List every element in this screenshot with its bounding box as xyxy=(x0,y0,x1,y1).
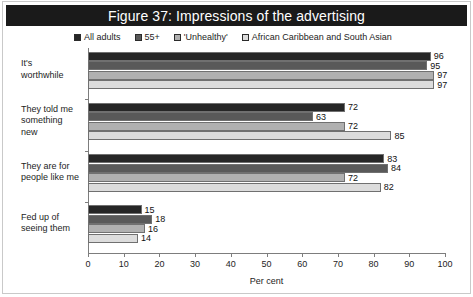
x-axis-title: Per cent xyxy=(88,276,445,286)
bar-value-label: 72 xyxy=(348,103,358,112)
y-axis-tick xyxy=(85,151,88,152)
x-axis-tick xyxy=(88,253,89,257)
legend-swatch-icon xyxy=(74,34,81,41)
bar[interactable] xyxy=(88,131,391,140)
x-axis-tick-label: 30 xyxy=(190,259,200,269)
x-axis-tick-label: 70 xyxy=(333,259,343,269)
x-axis-tick xyxy=(374,253,375,257)
bar-value-label: 72 xyxy=(348,174,358,183)
legend-item[interactable]: 55+ xyxy=(135,33,160,42)
category-label: It'sworthwhile xyxy=(21,58,87,81)
legend-item-label: All adults xyxy=(84,33,121,42)
legend-swatch-icon xyxy=(242,34,249,41)
bar[interactable] xyxy=(88,224,145,233)
bar[interactable] xyxy=(88,122,345,131)
category-label-line: They told me xyxy=(21,104,87,116)
legend-item[interactable]: African Caribbean and South Asian xyxy=(242,33,392,42)
bar[interactable] xyxy=(88,173,345,182)
x-axis-tick-label: 10 xyxy=(119,259,129,269)
y-axis-tick xyxy=(85,202,88,203)
category-label-line: people like me xyxy=(21,172,87,184)
x-axis-tick-label: 90 xyxy=(404,259,414,269)
x-axis-tick xyxy=(445,253,446,257)
figure-title-bar: Figure 37: Impressions of the advertisin… xyxy=(6,5,467,26)
x-axis-tick-label: 100 xyxy=(437,259,452,269)
category-label-line: new xyxy=(21,127,87,139)
bar-value-label: 85 xyxy=(394,132,404,141)
category-label: Fed up ofseeing them xyxy=(21,212,87,235)
x-axis-tick-label: 50 xyxy=(261,259,271,269)
x-axis-tick-label: 60 xyxy=(297,259,307,269)
x-axis-tick xyxy=(302,253,303,257)
x-axis-tick-label: 40 xyxy=(226,259,236,269)
x-axis-tick xyxy=(267,253,268,257)
legend-item-label: 55+ xyxy=(145,33,160,42)
x-axis-tick xyxy=(124,253,125,257)
x-axis-tick-label: 0 xyxy=(85,259,90,269)
bar-value-label: 63 xyxy=(316,113,326,122)
bar[interactable] xyxy=(88,205,142,214)
legend-item[interactable]: 'Unhealthy' xyxy=(174,33,228,42)
bar-value-label: 82 xyxy=(384,183,394,192)
category-label-line: worthwhile xyxy=(21,70,87,82)
bar-value-label: 97 xyxy=(437,81,447,90)
y-axis-tick xyxy=(85,99,88,100)
x-axis-tick-label: 80 xyxy=(369,259,379,269)
category-label-line: It's xyxy=(21,58,87,70)
bar-value-label: 15 xyxy=(145,206,155,215)
category-label-line: seeing them xyxy=(21,223,87,235)
legend-swatch-icon xyxy=(174,34,181,41)
x-axis-tick xyxy=(195,253,196,257)
category-label-line: They are for xyxy=(21,161,87,173)
bar-value-label: 14 xyxy=(141,234,151,243)
bar[interactable] xyxy=(88,154,384,163)
bar[interactable] xyxy=(88,112,313,121)
bar[interactable] xyxy=(88,183,381,192)
bar[interactable] xyxy=(88,61,427,70)
category-label: They are forpeople like me xyxy=(21,161,87,184)
bar[interactable] xyxy=(88,164,388,173)
plot-area: Per cent 0102030405060708090100969597977… xyxy=(88,48,445,253)
bar-value-label: 72 xyxy=(348,122,358,131)
page-title: Figure 37: Impressions of the advertisin… xyxy=(108,8,365,24)
x-axis-tick xyxy=(338,253,339,257)
x-axis-tick-label: 20 xyxy=(154,259,164,269)
bar-value-label: 97 xyxy=(437,71,447,80)
legend-item-label: 'Unhealthy' xyxy=(184,33,228,42)
x-axis-tick xyxy=(159,253,160,257)
category-label: They told mesomethingnew xyxy=(21,104,87,139)
figure-container: Figure 37: Impressions of the advertisin… xyxy=(0,0,473,297)
bar[interactable] xyxy=(88,215,152,224)
x-axis-tick xyxy=(231,253,232,257)
bar-value-label: 96 xyxy=(434,52,444,61)
category-label-line: something xyxy=(21,115,87,127)
bar[interactable] xyxy=(88,71,434,80)
legend-item[interactable]: All adults xyxy=(74,33,121,42)
bar[interactable] xyxy=(88,103,345,112)
chart-legend: All adults55+'Unhealthy'African Caribbea… xyxy=(74,31,454,44)
legend-item-label: African Caribbean and South Asian xyxy=(252,33,392,42)
bar[interactable] xyxy=(88,80,434,89)
bar[interactable] xyxy=(88,52,431,61)
category-label-line: Fed up of xyxy=(21,212,87,224)
bar-value-label: 84 xyxy=(391,164,401,173)
legend-swatch-icon xyxy=(135,34,142,41)
bar[interactable] xyxy=(88,234,138,243)
x-axis-tick xyxy=(409,253,410,257)
